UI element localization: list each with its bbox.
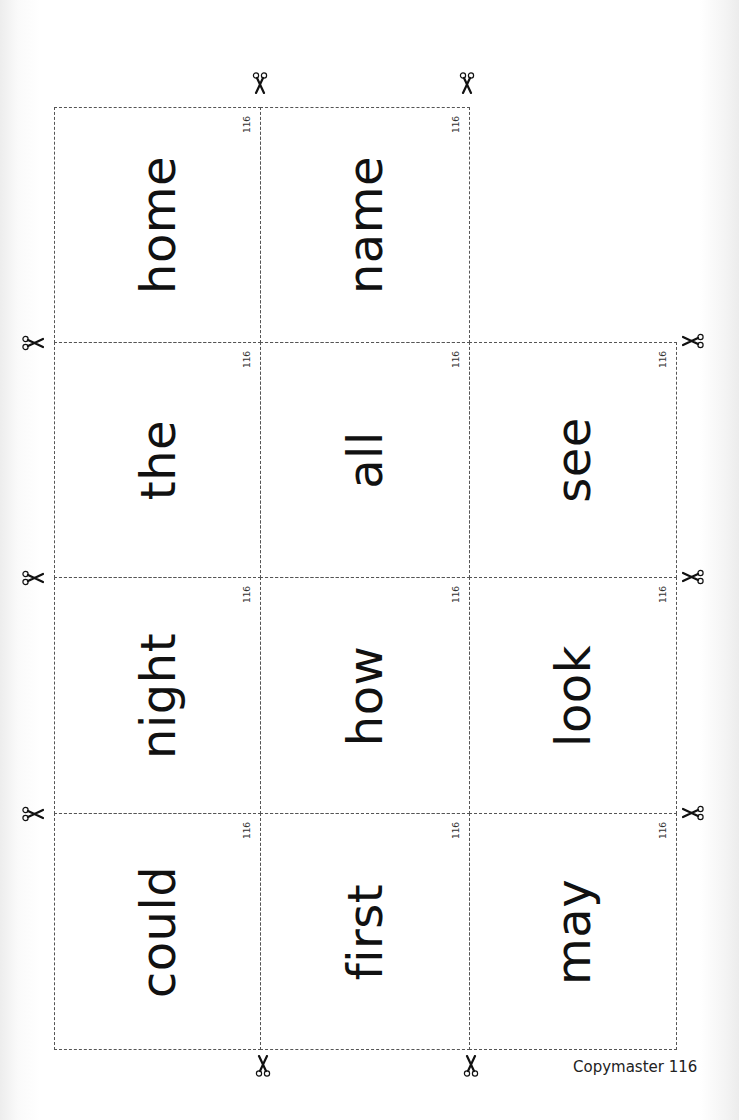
card-number: 116 [659, 822, 668, 839]
card-word: the [134, 420, 182, 500]
scissors-icon [22, 803, 44, 825]
word-card-name: 116 name [260, 107, 470, 343]
card-word: could [134, 865, 182, 997]
card-number: 116 [452, 586, 461, 603]
card-number: 116 [452, 822, 461, 839]
card-number: 116 [452, 351, 461, 368]
card-number: 116 [243, 116, 252, 133]
word-card-first: 116 first [260, 813, 470, 1050]
word-card-night: 116 night [54, 577, 261, 814]
scissors-icon [460, 1055, 482, 1077]
card-word: may [549, 878, 597, 984]
scissors-icon [682, 330, 704, 352]
card-number: 116 [243, 586, 252, 603]
card-word: first [341, 883, 389, 979]
word-card-how: 116 how [260, 577, 470, 814]
card-word: look [549, 645, 597, 747]
scissors-icon [682, 802, 704, 824]
word-card-home: 116 home [54, 107, 261, 343]
copymaster-page: 116 home 116 name 116 the 116 all 116 se… [0, 0, 739, 1120]
scissors-icon [22, 567, 44, 589]
card-word: all [341, 431, 389, 489]
card-number: 116 [243, 822, 252, 839]
card-word: night [134, 633, 182, 759]
word-card-all: 116 all [260, 342, 470, 578]
word-card-may: 116 may [469, 813, 677, 1050]
card-number: 116 [452, 116, 461, 133]
card-word: name [341, 156, 389, 294]
card-number: 116 [659, 586, 668, 603]
card-word: how [341, 645, 389, 746]
scissors-icon [682, 566, 704, 588]
scissors-icon [22, 332, 44, 354]
copymaster-label: Copymaster 116 [573, 1058, 697, 1076]
word-card-the: 116 the [54, 342, 261, 578]
card-number: 116 [659, 351, 668, 368]
card-word: home [134, 156, 182, 294]
card-number: 116 [243, 351, 252, 368]
word-card-see: 116 see [469, 342, 677, 578]
scissors-icon [456, 72, 478, 94]
word-card-look: 116 look [469, 577, 677, 814]
card-word: see [549, 417, 597, 503]
word-card-could: 116 could [54, 813, 261, 1050]
scissors-icon [252, 1055, 274, 1077]
scissors-icon [249, 72, 271, 94]
